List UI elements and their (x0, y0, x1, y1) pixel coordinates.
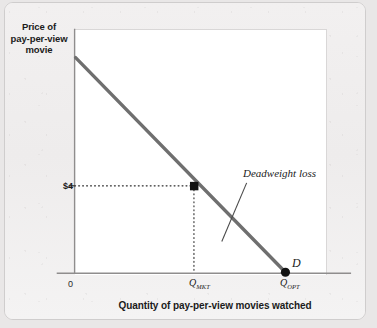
q-market-sub: MKT (196, 283, 210, 290)
demand-curve-label: D (292, 256, 301, 271)
figure-card: Price of pay-per-view movie Quantity of … (4, 2, 366, 320)
demand-curve (76, 58, 286, 273)
y-axis-title-line-1: Price of (5, 21, 73, 33)
y-axis-title: Price of pay-per-view movie (5, 21, 73, 56)
q-optimal-label: QOPT (280, 277, 300, 290)
market-equilibrium-marker (190, 182, 198, 190)
origin-label: 0 (68, 279, 73, 289)
optimal-quantity-marker (281, 268, 290, 277)
y-axis-title-line-2: pay-per-view (5, 33, 73, 45)
q-optimal-sub: OPT (287, 283, 300, 290)
x-axis-title: Quantity of pay-per-view movies watched (65, 300, 365, 311)
y-axis-title-line-3: movie (5, 44, 73, 56)
deadweight-loss-annotation: Deadweight loss (243, 167, 316, 179)
price-tick-label: $4 (53, 181, 73, 191)
economics-chart: Price of pay-per-view movie Quantity of … (5, 3, 365, 319)
q-market-label: QMKT (189, 277, 210, 290)
